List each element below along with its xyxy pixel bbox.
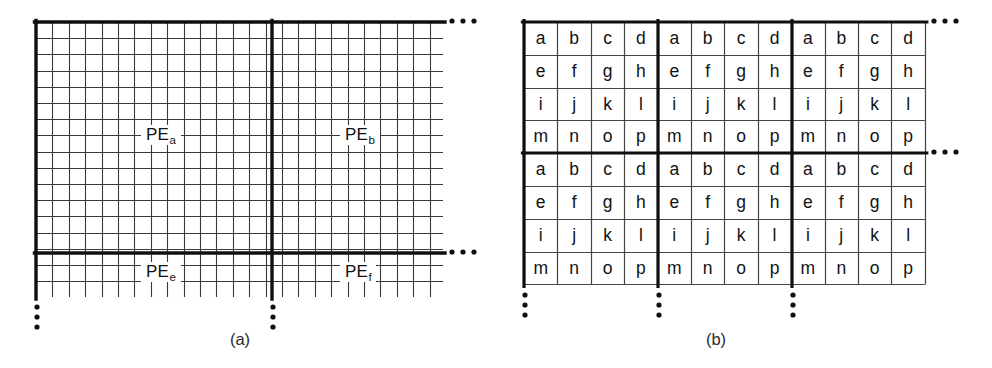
cell-letter: d — [770, 28, 780, 48]
cell-letter: o — [736, 258, 746, 278]
ellipsis-horizontal — [931, 18, 936, 23]
panel-a-caption: (a) — [230, 330, 250, 349]
cell-letter: g — [603, 61, 613, 81]
pe-label-a-sub: a — [170, 134, 177, 146]
cell-letter: l — [906, 225, 910, 245]
cell-letter: a — [669, 159, 679, 179]
cell-letter: f — [572, 61, 577, 81]
ellipsis-vertical — [522, 312, 527, 317]
ellipsis-horizontal — [460, 249, 465, 254]
pe-label-b: PEb — [340, 125, 380, 145]
panel-a-grid — [0, 0, 496, 368]
pe-label-e-text: PE — [146, 262, 169, 281]
cell-letter: b — [836, 28, 846, 48]
cell-letter: j — [838, 225, 843, 245]
cell-letter: e — [536, 192, 546, 212]
cell-letter: f — [705, 192, 710, 212]
cell-letter: k — [737, 94, 746, 114]
ellipsis-horizontal — [460, 18, 465, 23]
pe-label-f-text: PE — [345, 262, 368, 281]
cell-letter: c — [870, 28, 879, 48]
cell-letter: c — [870, 159, 879, 179]
cell-letter: c — [737, 28, 746, 48]
cell-letter: e — [669, 61, 679, 81]
ellipsis-horizontal — [953, 18, 958, 23]
cell-letter: o — [870, 258, 880, 278]
panel-b-grid: abcdefghijklmnopabcdefghijklmnopabcdefgh… — [496, 0, 992, 368]
ellipsis-horizontal — [942, 18, 947, 23]
cell-letter: f — [705, 61, 710, 81]
cell-letter: o — [603, 258, 613, 278]
cell-letter: f — [839, 61, 844, 81]
cell-letter: k — [870, 94, 879, 114]
cell-letter: p — [903, 126, 913, 146]
cell-letter: p — [770, 126, 780, 146]
cell-letter: d — [903, 28, 913, 48]
cell-letter: e — [669, 192, 679, 212]
cell-letter: n — [569, 258, 579, 278]
ellipsis-horizontal — [942, 149, 947, 154]
cell-letter: j — [705, 94, 710, 114]
cell-letter: p — [636, 258, 646, 278]
cell-letter: p — [903, 258, 913, 278]
pe-label-e-sub: e — [170, 271, 177, 283]
pe-label-b-text: PE — [345, 125, 368, 144]
ellipsis-horizontal — [471, 249, 476, 254]
cell-letter: m — [533, 258, 548, 278]
cell-letter: d — [636, 28, 646, 48]
cell-letter: g — [736, 192, 746, 212]
cell-letter: o — [736, 126, 746, 146]
cell-letter: a — [803, 159, 813, 179]
cell-letter: k — [603, 225, 612, 245]
cell-letter: l — [639, 225, 643, 245]
cell-letter: n — [703, 126, 713, 146]
cell-letter: d — [636, 159, 646, 179]
pe-label-f-sub: f — [369, 271, 372, 283]
cell-letter: g — [736, 61, 746, 81]
cell-letter: p — [770, 258, 780, 278]
cell-letter: b — [703, 159, 713, 179]
cell-letter: i — [672, 94, 676, 114]
cell-letter: m — [667, 126, 682, 146]
cell-letter: c — [603, 28, 612, 48]
pe-label-a-text: PE — [146, 125, 169, 144]
cell-letter: a — [803, 28, 813, 48]
cell-letter: o — [603, 126, 613, 146]
ellipsis-vertical — [34, 304, 39, 309]
cell-letter: c — [603, 159, 612, 179]
cell-letter: j — [705, 225, 710, 245]
cell-letter: d — [770, 159, 780, 179]
pe-label-f: PEf — [340, 262, 376, 282]
ellipsis-vertical — [790, 312, 795, 317]
cell-letter: l — [906, 94, 910, 114]
ellipsis-vertical — [270, 324, 275, 329]
cell-letter: d — [903, 159, 913, 179]
cell-letter: k — [737, 225, 746, 245]
cell-letter: i — [806, 94, 810, 114]
cell-letter: i — [806, 225, 810, 245]
ellipsis-vertical — [270, 304, 275, 309]
cell-letter: f — [839, 192, 844, 212]
cell-letter: l — [773, 94, 777, 114]
cell-letter: h — [770, 192, 780, 212]
cell-letter: m — [533, 126, 548, 146]
cell-letter: k — [603, 94, 612, 114]
cell-letter: g — [870, 192, 880, 212]
cell-letter: i — [539, 225, 543, 245]
cell-letter: i — [539, 94, 543, 114]
cell-letter: p — [636, 126, 646, 146]
cell-letter: b — [569, 28, 579, 48]
ellipsis-vertical — [34, 324, 39, 329]
cell-letter: g — [870, 61, 880, 81]
panel-b-caption: (b) — [706, 330, 726, 349]
ellipsis-horizontal — [449, 18, 454, 23]
ellipsis-horizontal — [953, 149, 958, 154]
cell-letter: a — [536, 159, 546, 179]
cell-letter: m — [801, 258, 816, 278]
cell-letter: f — [572, 192, 577, 212]
cell-letter: o — [870, 126, 880, 146]
ellipsis-horizontal — [931, 149, 936, 154]
cell-letter: m — [667, 258, 682, 278]
cell-letter: m — [801, 126, 816, 146]
cell-letter: l — [773, 225, 777, 245]
